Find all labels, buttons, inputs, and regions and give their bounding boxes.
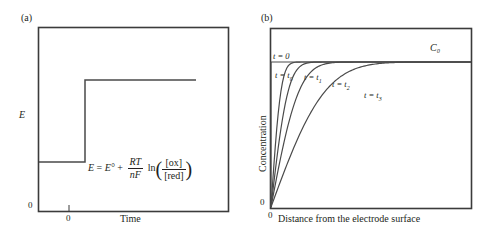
panel-b-plot <box>247 0 494 238</box>
eqn-standard-potential: E° <box>105 162 115 173</box>
eqn-lhs: E <box>88 162 94 173</box>
eqn-rt-nf-fraction: RT nF <box>128 156 144 180</box>
panel-a-nernst-equation: E = E° + RT nF ln( [ox] [red] ) <box>88 157 192 181</box>
panel-a-step-trace <box>39 80 196 162</box>
panel-a: (a) E 0 0 Time E = E° + RT nF l <box>0 0 247 238</box>
eqn-red-denominator: [red] <box>162 170 185 182</box>
panel-a-plot <box>0 0 247 238</box>
panel-a-frame <box>39 28 229 212</box>
eqn-nf-denominator: nF <box>128 169 144 181</box>
eqn-equals: = <box>97 162 103 173</box>
eqn-plus: + <box>117 162 123 173</box>
eqn-ln: ln <box>148 162 156 173</box>
profile-t-2 <box>271 62 471 207</box>
profile-t-0 <box>271 62 471 207</box>
eqn-ox-numerator: [ox] <box>162 157 185 170</box>
figure-container: (a) E 0 0 Time E = E° + RT nF l <box>0 0 494 238</box>
profile-t-1 <box>271 62 471 207</box>
eqn-right-paren: ) <box>186 161 193 177</box>
panel-b-frame <box>271 29 472 209</box>
panel-b-concentration-profiles <box>271 62 471 207</box>
eqn-left-paren: ( <box>155 161 162 177</box>
panel-b: (b) Concentration 0 0 Distance from the … <box>247 0 494 238</box>
eqn-rt-numerator: RT <box>128 156 144 169</box>
eqn-concentration-ratio: [ox] [red] <box>162 157 185 181</box>
profile-t-3 <box>271 62 471 207</box>
